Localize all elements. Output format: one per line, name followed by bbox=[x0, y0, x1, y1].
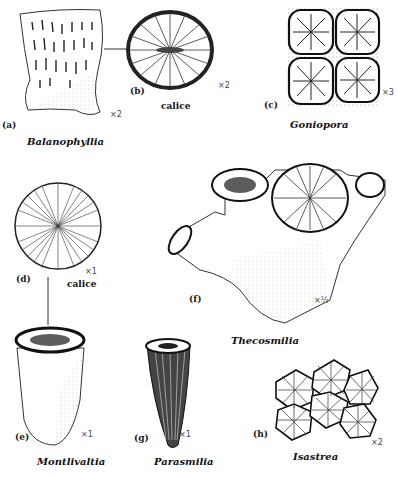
panel-label-a: (a) bbox=[2, 120, 16, 130]
magnification-c: ×3 bbox=[382, 88, 394, 97]
montlivaltia-drawing bbox=[16, 328, 84, 445]
magnification-f: ×½ bbox=[314, 296, 328, 305]
species-name-balanophyllia: Balanophyllia bbox=[27, 136, 104, 147]
species-name-thecosmilia: Thecosmilia bbox=[231, 335, 299, 346]
magnification-g: ×1 bbox=[179, 430, 191, 439]
magnification-d: ×1 bbox=[85, 267, 97, 276]
panel-label-d: (d) bbox=[16, 274, 31, 284]
panel-label-g: (g) bbox=[134, 433, 149, 443]
isastrea-drawing bbox=[276, 360, 378, 440]
panel-label-b: (b) bbox=[130, 86, 145, 96]
calice-caption-d: calice bbox=[67, 279, 96, 289]
species-name-goniopora: Goniopora bbox=[290, 119, 348, 130]
balanophyllia-drawing bbox=[20, 10, 103, 115]
species-name-montlivaltia: Montlivaltia bbox=[37, 456, 105, 467]
magnification-e: ×1 bbox=[81, 430, 93, 439]
goniopora-drawing bbox=[287, 8, 379, 106]
magnification-b: ×2 bbox=[218, 81, 230, 90]
magnification-h: ×2 bbox=[371, 438, 383, 447]
panel-label-c: (c) bbox=[264, 100, 278, 110]
panel-label-h: (h) bbox=[253, 429, 268, 439]
panel-label-f: (f) bbox=[189, 294, 201, 304]
species-name-isastrea: Isastrea bbox=[293, 451, 338, 462]
magnification-a: ×2 bbox=[110, 110, 122, 119]
species-name-parasmilia: Parasmilia bbox=[154, 456, 214, 467]
coral-illustrations bbox=[0, 0, 398, 477]
calice-caption-b: calice bbox=[161, 101, 190, 111]
calice-d-drawing bbox=[15, 183, 101, 269]
panel-label-e: (e) bbox=[15, 432, 29, 442]
calice-b-drawing bbox=[128, 12, 212, 88]
